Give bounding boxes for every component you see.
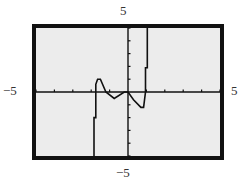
plot-area: [0, 0, 247, 189]
